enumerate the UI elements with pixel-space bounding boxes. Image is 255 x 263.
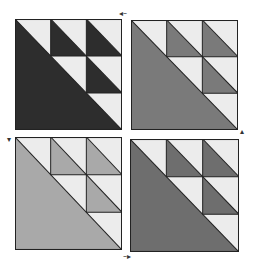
arrow-left-icon: ◂– bbox=[119, 10, 127, 18]
arrow-down-icon: ▾ bbox=[7, 136, 11, 144]
arrow-up-icon: ▴ bbox=[240, 128, 244, 136]
quilt-block-top-right bbox=[131, 20, 238, 130]
arrow-right-icon: –▸ bbox=[123, 253, 131, 261]
quilt-block-bottom-left bbox=[15, 137, 122, 250]
quilt-block-graphic bbox=[130, 139, 239, 252]
quilt-block-top-left bbox=[15, 19, 122, 130]
quilt-block-graphic bbox=[131, 20, 238, 130]
quilt-block-graphic bbox=[15, 19, 122, 130]
quilt-block-graphic bbox=[15, 137, 122, 250]
quilt-block-bottom-right bbox=[130, 139, 239, 252]
